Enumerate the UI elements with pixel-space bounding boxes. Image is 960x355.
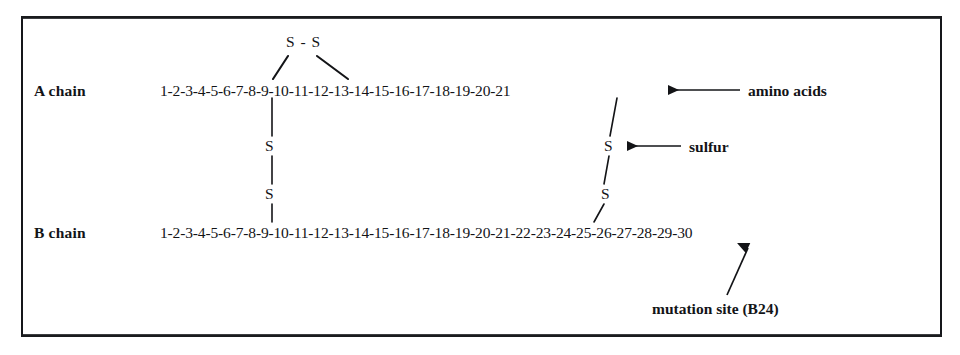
sulfur-atom-right-lower: S	[601, 186, 610, 202]
amino-acids-annotation: amino acids	[748, 82, 827, 100]
sulfur-atom-left-upper: S	[265, 138, 274, 154]
b-chain-sequence: 1-2-3-4-5-6-7-8-9-10-11-12-13-14-15-16-1…	[160, 224, 692, 242]
sulfur-atom-right-upper: S	[604, 138, 613, 154]
sulfur-annotation: sulfur	[689, 138, 729, 156]
sulfur-atom-left-lower: S	[265, 186, 274, 202]
figure-border	[21, 16, 942, 337]
a-chain-sequence: 1-2-3-4-5-6-7-8-9-10-11-12-13-14-15-16-1…	[160, 82, 510, 100]
intrachain-disulfide-label: S - S	[286, 34, 321, 50]
a-chain-label: A chain	[34, 82, 86, 100]
figure-border-bottom-edge	[21, 334, 942, 337]
figure-border-top-edge	[21, 16, 942, 19]
figure-canvas: A chain B chain 1-2-3-4-5-6-7-8-9-10-11-…	[0, 0, 960, 355]
mutation-site-annotation: mutation site (B24)	[652, 300, 779, 318]
b-chain-label: B chain	[34, 224, 86, 242]
